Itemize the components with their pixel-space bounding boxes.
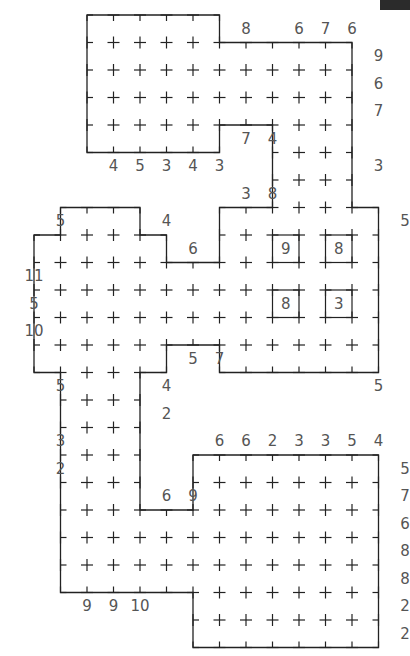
edge-clue-label: 9 — [188, 487, 198, 505]
grid-marks — [34, 15, 379, 648]
edge-clue-label: 6 — [347, 20, 357, 38]
clue-boxes: 9883 — [273, 235, 353, 318]
edge-clue-label: 6 — [241, 432, 251, 450]
edge-clue-label: 8 — [400, 570, 410, 588]
edge-clue-label: 4 — [374, 432, 384, 450]
edge-clue-label: 9 — [374, 47, 384, 65]
edge-clue-label: 3 — [294, 432, 304, 450]
box-clue-label: 9 — [281, 240, 291, 258]
edge-clue-label: 6 — [215, 432, 225, 450]
box-clue-label: 8 — [281, 295, 291, 313]
edge-clue-label: 5 — [56, 377, 66, 395]
edge-clue-label: 3 — [56, 432, 66, 450]
edge-clue-label: 5 — [374, 377, 384, 395]
edge-clue-label: 5 — [56, 212, 66, 230]
edge-clue-label: 6 — [374, 75, 384, 93]
edge-clue-label: 2 — [400, 625, 410, 643]
edge-clue-label: 8 — [400, 542, 410, 560]
edge-clue-label: 2 — [400, 597, 410, 615]
edge-clue-label: 7 — [321, 20, 331, 38]
edge-clue-label: 5 — [400, 212, 410, 230]
edge-clue-label: 5 — [29, 295, 39, 313]
edge-clue-label: 9 — [82, 597, 92, 615]
edge-clue-label: 3 — [374, 157, 384, 175]
edge-clue-label: 8 — [241, 20, 251, 38]
edge-clue-label: 3 — [241, 185, 251, 203]
edge-clue-label: 11 — [24, 267, 43, 285]
edge-clue-label: 6 — [162, 487, 172, 505]
edge-clue-label: 4 — [268, 130, 278, 148]
box-clue-label: 8 — [334, 240, 344, 258]
edge-clue-label: 5 — [400, 460, 410, 478]
edge-clue-label: 10 — [24, 322, 43, 340]
edge-clue-label: 6 — [294, 20, 304, 38]
edge-clue-label: 4 — [162, 212, 172, 230]
edge-clue-label: 5 — [347, 432, 357, 450]
edge-clue-label: 2 — [268, 432, 278, 450]
edge-clue-label: 7 — [400, 487, 410, 505]
edge-clue-label: 5 — [135, 157, 145, 175]
edge-clue-label: 7 — [374, 102, 384, 120]
edge-clue-label: 2 — [56, 460, 66, 478]
edge-clue-label: 6 — [188, 240, 198, 258]
edge-clue-label: 6 — [400, 515, 410, 533]
region-outline — [34, 15, 379, 648]
puzzle-board[interactable]: 9883 86769673453437438546511510575425326… — [0, 0, 410, 656]
edge-clue-label: 4 — [109, 157, 119, 175]
edge-clue-label: 7 — [241, 130, 251, 148]
edge-clue-label: 4 — [162, 377, 172, 395]
edge-clue-label: 3 — [162, 157, 172, 175]
edge-clue-label: 8 — [268, 185, 278, 203]
edge-clue-label: 10 — [130, 597, 149, 615]
edge-clue-label: 3 — [215, 157, 225, 175]
edge-clue-label: 5 — [188, 350, 198, 368]
edge-clue-label: 2 — [162, 405, 172, 423]
edge-clue-label: 4 — [188, 157, 198, 175]
edge-clue-label: 7 — [215, 350, 225, 368]
edge-clue-label: 9 — [109, 597, 119, 615]
box-clue-label: 3 — [334, 295, 344, 313]
edge-clue-label: 3 — [321, 432, 331, 450]
